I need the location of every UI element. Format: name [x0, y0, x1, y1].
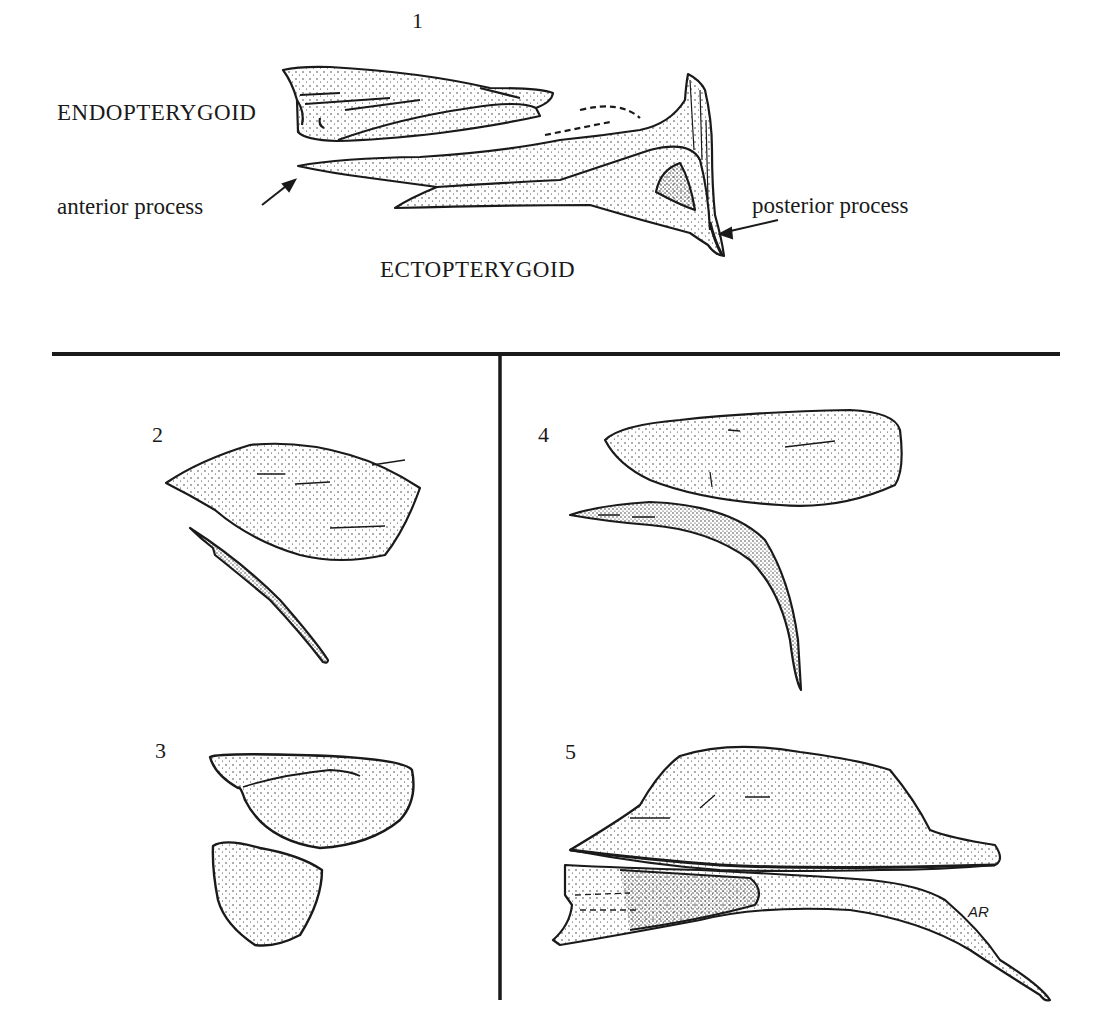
panel-1-number: 1 — [412, 10, 423, 32]
panel-5-drawing — [553, 747, 1050, 1001]
panel-2-number: 2 — [152, 424, 163, 446]
anterior-process-label: anterior process — [57, 195, 203, 218]
panel-4-number: 4 — [538, 424, 549, 446]
panel-3-drawing — [210, 754, 414, 945]
posterior-process-label: posterior process — [752, 194, 909, 217]
endopterygoid-label: ENDOPTERYGOID — [57, 101, 256, 124]
artist-signature: AR — [968, 904, 989, 919]
ectopterygoid-label: ECTOPTERYGOID — [380, 258, 575, 281]
anatomical-figure-plate: 1 ENDOPTERYGOID anterior process posteri… — [0, 0, 1105, 1026]
figure-drawings — [0, 0, 1105, 1026]
panel-2-drawing — [166, 444, 420, 663]
panel-4-drawing — [570, 410, 902, 690]
panel-1-endopterygoid-drawing — [283, 67, 553, 141]
panel-5-number: 5 — [565, 741, 576, 763]
panel-3-number: 3 — [155, 740, 166, 762]
